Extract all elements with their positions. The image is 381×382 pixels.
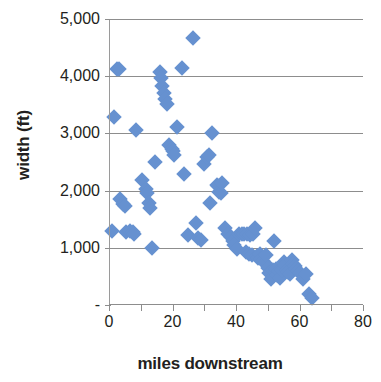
x-axis-tick (173, 305, 174, 311)
y-axis-tick (105, 248, 111, 249)
gridline (109, 133, 363, 134)
x-axis-tick (331, 305, 332, 311)
x-axis-tick (363, 305, 364, 311)
x-axis-tick-label: 0 (89, 313, 129, 331)
x-axis-tick-label: 20 (153, 313, 193, 331)
x-axis-tick (204, 305, 205, 311)
y-axis-tick-label: 4,000 (32, 67, 100, 85)
x-axis-title: miles downstream (60, 354, 360, 374)
x-axis-tick (109, 305, 110, 311)
x-axis-tick-label: 40 (216, 313, 256, 331)
x-axis-tick (268, 305, 269, 311)
x-axis-tick-label: 80 (343, 313, 381, 331)
data-point (176, 166, 192, 182)
data-point (185, 30, 201, 46)
y-axis-tick-label: 1,000 (32, 239, 100, 257)
x-axis-tick-label: 60 (280, 313, 320, 331)
y-axis-line (109, 19, 110, 305)
gridline (109, 19, 363, 20)
y-axis-tick (105, 19, 111, 20)
y-axis-tick-label: 5,000 (32, 10, 100, 28)
plot-area (109, 19, 363, 305)
x-axis-tick (141, 305, 142, 311)
data-point (128, 122, 144, 138)
y-axis-tick (105, 76, 111, 77)
gridline (109, 76, 363, 77)
y-axis-tick-label: - (32, 296, 100, 314)
data-point (189, 215, 205, 231)
data-point (147, 154, 163, 170)
data-point (266, 233, 282, 249)
x-axis-tick (236, 305, 237, 311)
y-axis-tick-label: 3,000 (32, 124, 100, 142)
scatter-chart: width (ft) -1,0002,0003,0004,0005,000 02… (0, 0, 381, 382)
y-axis-tick (105, 133, 111, 134)
y-axis-tick-label: 2,000 (32, 182, 100, 200)
x-axis-tick (300, 305, 301, 311)
y-axis-tick (105, 305, 111, 306)
y-axis-tick (105, 191, 111, 192)
data-point (174, 60, 190, 76)
data-point (204, 126, 220, 142)
data-point (144, 240, 160, 256)
